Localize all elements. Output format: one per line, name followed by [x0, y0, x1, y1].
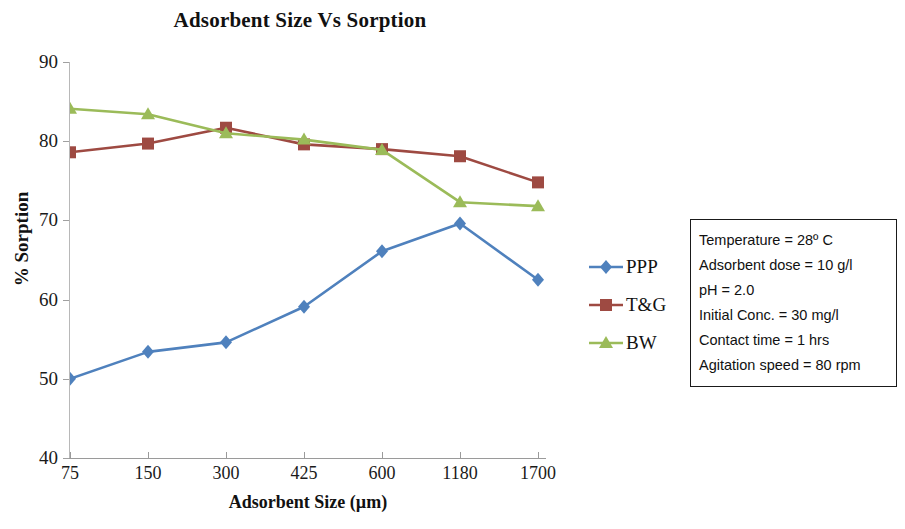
data-point-marker — [70, 146, 76, 158]
series-ppp — [70, 217, 544, 386]
data-point-marker — [220, 335, 232, 349]
data-point-marker — [376, 244, 388, 258]
y-axis-tick-label: 60 — [20, 289, 58, 311]
x-axis-tick-label: 300 — [191, 463, 261, 484]
condition-line: Contact time = 1 hrs — [699, 328, 889, 353]
x-axis-title: Adsorbent Size (µm) — [70, 492, 546, 513]
plot-series-area — [70, 62, 545, 458]
legend-item-t-g[interactable]: T&G — [588, 286, 680, 324]
chart-title: Adsorbent Size Vs Sorption — [0, 8, 600, 33]
x-axis-tick-label: 150 — [113, 463, 183, 484]
data-point-marker — [298, 300, 310, 314]
y-axis-tick-label: 80 — [20, 130, 58, 152]
x-axis-tick-label: 1180 — [425, 463, 495, 484]
x-axis-tick-label: 425 — [269, 463, 339, 484]
chart-legend: PPPT&GBW — [588, 248, 680, 362]
data-point-marker — [532, 273, 544, 287]
condition-line: pH = 2.0 — [699, 278, 889, 303]
x-axis-line — [69, 458, 546, 459]
legend-label: BW — [626, 332, 657, 354]
condition-line: Agitation speed = 80 rpm — [699, 353, 889, 378]
condition-line: Adsorbent dose = 10 g/l — [699, 253, 889, 278]
data-point-marker — [142, 138, 154, 150]
legend-item-bw[interactable]: BW — [588, 324, 680, 362]
data-point-marker — [70, 372, 76, 386]
x-axis-tick-label: 600 — [347, 463, 417, 484]
y-axis-tick-label: 90 — [20, 51, 58, 73]
legend-marker-icon — [588, 335, 624, 351]
data-point-marker — [454, 150, 466, 162]
y-axis-tick-label: 50 — [20, 368, 58, 390]
legend-item-ppp[interactable]: PPP — [588, 248, 680, 286]
series-line — [70, 109, 538, 206]
legend-marker-icon — [588, 259, 624, 275]
legend-label: T&G — [626, 294, 666, 316]
y-axis-tick-label: 70 — [20, 209, 58, 231]
data-point-marker — [142, 345, 154, 359]
condition-line: Initial Conc. = 30 mg/l — [699, 303, 889, 328]
legend-marker-icon — [588, 297, 624, 313]
condition-line: Temperature = 28º C — [699, 228, 889, 253]
chart-container: Adsorbent Size Vs Sorption % Sorption 40… — [0, 0, 600, 529]
series-bw — [70, 102, 545, 211]
data-point-marker — [532, 176, 544, 188]
series-t-g — [70, 122, 544, 189]
x-axis-tick-label: 1700 — [503, 463, 573, 484]
legend-label: PPP — [626, 256, 658, 278]
x-axis-tick-label: 75 — [35, 463, 105, 484]
experiment-conditions-box: Temperature = 28º CAdsorbent dose = 10 g… — [690, 219, 897, 387]
data-point-marker — [454, 217, 466, 231]
